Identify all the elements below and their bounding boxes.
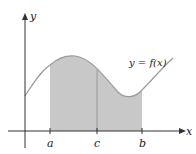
y-axis-arrow-icon xyxy=(22,13,28,20)
x-axis-label: x xyxy=(186,125,193,138)
tick-label-b: b xyxy=(139,137,146,150)
tick-label-a: a xyxy=(47,137,54,150)
x-axis-arrow-icon xyxy=(179,128,186,134)
y-axis-label: y xyxy=(29,10,37,23)
curve-label: y = f(x) xyxy=(128,57,167,68)
area-diagram: y x a c b y = f(x) xyxy=(0,0,196,154)
tick-label-c: c xyxy=(94,137,100,150)
